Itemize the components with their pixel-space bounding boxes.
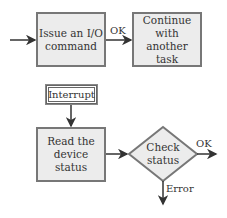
- check-status-text: Check status: [139, 141, 187, 167]
- ok-label-bottom: OK: [196, 138, 212, 149]
- read-line-2: device status: [38, 148, 104, 174]
- issue-io-command-box: Issue an I/O command: [36, 12, 106, 67]
- check-line-2: status: [139, 154, 187, 167]
- check-line-1: Check: [139, 141, 187, 154]
- read-device-status-box: Read the device status: [36, 127, 106, 182]
- interrupt-label: Interrupt: [48, 89, 95, 100]
- issue-line-2: command: [39, 40, 103, 53]
- ok-label-top: OK: [110, 25, 126, 36]
- continue-line-1: Continue with: [134, 14, 200, 40]
- error-label: Error: [166, 183, 194, 194]
- continue-task-box: Continue with another task: [132, 12, 202, 67]
- read-line-1: Read the: [38, 135, 104, 148]
- issue-line-1: Issue an I/O: [39, 27, 103, 40]
- continue-line-2: another task: [134, 40, 200, 66]
- interrupt-box: Interrupt: [46, 85, 97, 104]
